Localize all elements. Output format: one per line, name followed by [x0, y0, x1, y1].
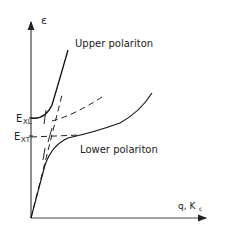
- svg-text:E: E: [16, 113, 22, 124]
- cross-tick-2: [48, 128, 52, 142]
- svg-text:XL: XL: [23, 118, 32, 126]
- cross-tick-1: [44, 110, 46, 124]
- lower-polariton-label: Lower polariton: [80, 144, 158, 155]
- exl-label: E XL: [16, 113, 32, 126]
- x-axis-label: q, K c: [178, 201, 202, 212]
- polariton-diagram: ε Upper polariton Lower polariton E XL E…: [0, 0, 230, 230]
- svg-text:XT: XT: [21, 136, 31, 144]
- svg-text:q, K: q, K: [178, 201, 196, 211]
- upper-polariton-label: Upper polariton: [75, 38, 153, 49]
- exciton-xl-dashed: [52, 95, 105, 121]
- cross-tick-3: [43, 148, 45, 160]
- y-axis-label: ε: [41, 14, 47, 27]
- svg-text:c: c: [199, 205, 202, 212]
- lower-polariton-curve: [31, 93, 152, 218]
- upper-polariton-curve: [31, 50, 68, 118]
- ext-label: E XT: [14, 131, 31, 144]
- svg-text:E: E: [14, 131, 20, 142]
